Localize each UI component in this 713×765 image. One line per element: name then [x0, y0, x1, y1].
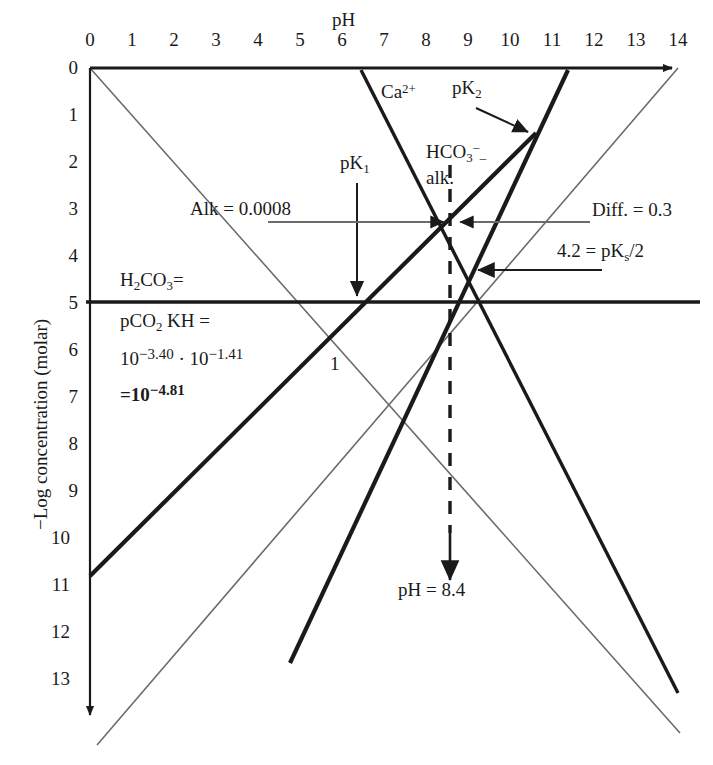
y-tick-6: 6: [38, 340, 78, 360]
x-tick-2: 2: [154, 30, 194, 50]
pks-value-label: 4.2 = pKs/2: [557, 241, 644, 263]
hco3-label: HCO3−–: [426, 142, 486, 165]
y-tick-3: 3: [38, 199, 78, 219]
x-axis-title: pH: [332, 10, 355, 30]
h2co3-l3-d: −1.41: [209, 346, 244, 362]
x-tick-7: 7: [364, 30, 404, 50]
y-tick-0: 0: [38, 58, 78, 78]
x-tick-1: 1: [112, 30, 152, 50]
x-tick-4: 4: [238, 30, 278, 50]
h2co3-l4-a: =10: [120, 384, 150, 405]
pks-value-text: 4.2 = pK: [557, 240, 624, 261]
hco3-label-charge: −: [473, 141, 480, 156]
pk1-label: pK1: [340, 153, 370, 175]
h2co3-l4-b: −4.81: [150, 382, 185, 398]
x-tick-3: 3: [196, 30, 236, 50]
figure-root: pH −Log concentration (molar) 0 1 2 3 4 …: [0, 0, 713, 765]
y-tick-5: 5: [38, 293, 78, 313]
y-tick-1: 1: [38, 105, 78, 125]
h2co3-l2-a: pCO: [120, 310, 156, 331]
x-tick-10: 10: [490, 30, 530, 50]
h2co3-line-4: =10−4.81: [120, 383, 185, 405]
pk2-arrow: [476, 108, 528, 132]
ca2plus-label: Ca2+: [381, 82, 416, 102]
pk2-label-text: pK: [452, 77, 475, 98]
hco3-label-dash: –: [480, 150, 486, 165]
x-tick-6: 6: [322, 30, 362, 50]
x-tick-8: 8: [406, 30, 446, 50]
x-tick-14: 14: [658, 30, 698, 50]
hco3-label-text: HCO: [426, 141, 466, 162]
y-tick-8: 8: [38, 434, 78, 454]
y-tick-2: 2: [38, 152, 78, 172]
h2co3-l1-c: CO: [140, 269, 166, 290]
h2co3-l2-c: KH =: [162, 310, 210, 331]
pk2-label-sub: 2: [475, 86, 481, 101]
x-tick-12: 12: [574, 30, 614, 50]
slope-label-1: 1: [330, 354, 340, 374]
pk1-label-sub: 1: [363, 161, 369, 176]
x-tick-5: 5: [280, 30, 320, 50]
h2co3-l3-a: 10: [120, 348, 139, 369]
y-tick-11: 11: [30, 575, 70, 595]
y-tick-12: 12: [30, 622, 70, 642]
diff-value-label: Diff. = 0.3: [592, 200, 672, 220]
pk1-label-text: pK: [340, 152, 363, 173]
h2co3-line-2: pCO2 KH =: [120, 311, 210, 333]
h2co3-line-1: H2CO3=: [120, 270, 184, 292]
ca2plus-label-text: Ca: [381, 81, 402, 102]
y-tick-13: 13: [30, 669, 70, 689]
y-tick-7: 7: [38, 387, 78, 407]
h2co3-l3-b: −3.40: [139, 346, 174, 362]
x-tick-13: 13: [616, 30, 656, 50]
pk2-label: pK2: [452, 78, 482, 100]
h2co3-line-3: 10−3.40 · 10−1.41: [120, 347, 243, 369]
pks-value-tail: /2: [629, 240, 644, 261]
h2co3-l1-e: =: [173, 269, 184, 290]
alk-value-label: Alk = 0.0008: [190, 199, 291, 219]
y-tick-9: 9: [38, 481, 78, 501]
ph-84-label: pH = 8.4: [398, 580, 465, 600]
ca2plus-charge: 2+: [402, 81, 416, 96]
x-tick-9: 9: [448, 30, 488, 50]
x-tick-0: 0: [70, 30, 110, 50]
y-tick-4: 4: [38, 246, 78, 266]
alk-abbrev-label: alk.: [426, 168, 454, 188]
series-line-oh-minus: [97, 68, 678, 745]
h2co3-l3-c: · 10: [174, 348, 209, 369]
chart-canvas: [0, 0, 713, 765]
h2co3-l1-a: H: [120, 269, 134, 290]
y-tick-10: 10: [30, 528, 70, 548]
x-tick-11: 11: [532, 30, 572, 50]
